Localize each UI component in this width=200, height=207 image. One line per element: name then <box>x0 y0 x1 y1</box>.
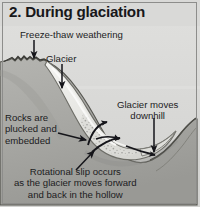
glaciation-diagram-figure: 2. During glaciation <box>0 0 200 207</box>
label-glacier-moves-line-1: Glacier moves <box>117 99 178 110</box>
label-glacier-moves-line-2: downhill <box>117 110 178 121</box>
label-rotational-slip-line-1: Rotational slip occurs <box>14 166 137 177</box>
label-rocks-plucked: Rocks are plucked and embedded <box>5 112 57 146</box>
label-rotational-slip: Rotational slip occurs as the glacier mo… <box>14 166 137 200</box>
label-glacier-moves-downhill: Glacier moves downhill <box>117 99 178 122</box>
label-rocks-plucked-line-1: Rocks are <box>5 112 57 123</box>
figure-title: 2. During glaciation <box>9 3 145 20</box>
label-rotational-slip-line-2: as the glacier moves forward <box>14 177 137 188</box>
label-rotational-slip-line-3: and back in the hollow <box>14 189 137 200</box>
label-freeze-thaw-weathering: Freeze-thaw weathering <box>20 29 123 40</box>
label-glacier: Glacier <box>46 53 76 64</box>
label-rocks-plucked-line-2: plucked and <box>5 123 57 134</box>
label-rocks-plucked-line-3: embedded <box>5 135 57 146</box>
